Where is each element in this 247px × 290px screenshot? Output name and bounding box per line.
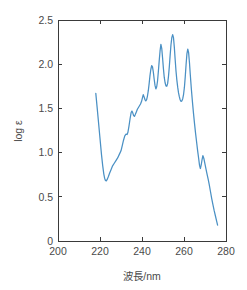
y-tick-label: 2.0 [38,58,53,70]
plot-area-background [58,20,226,241]
y-tick-label: 1.0 [38,146,53,158]
spectrum-chart: 200220240260280 00.51.01.52.02.5 波長/nm l… [0,0,247,290]
x-tick-label: 260 [175,245,193,257]
y-tick-label: 0 [47,235,53,247]
y-tick-label: 2.5 [38,14,53,26]
x-tick-label: 240 [133,245,151,257]
chart-figure: 200220240260280 00.51.01.52.02.5 波長/nm l… [0,0,247,290]
x-tick-label: 220 [91,245,109,257]
y-tick-label: 0.5 [38,191,53,203]
x-tick-label: 280 [217,245,235,257]
y-axis-label: log ε [12,120,24,142]
x-axis-label: 波長/nm [123,270,161,282]
y-tick-label: 1.5 [38,102,53,114]
